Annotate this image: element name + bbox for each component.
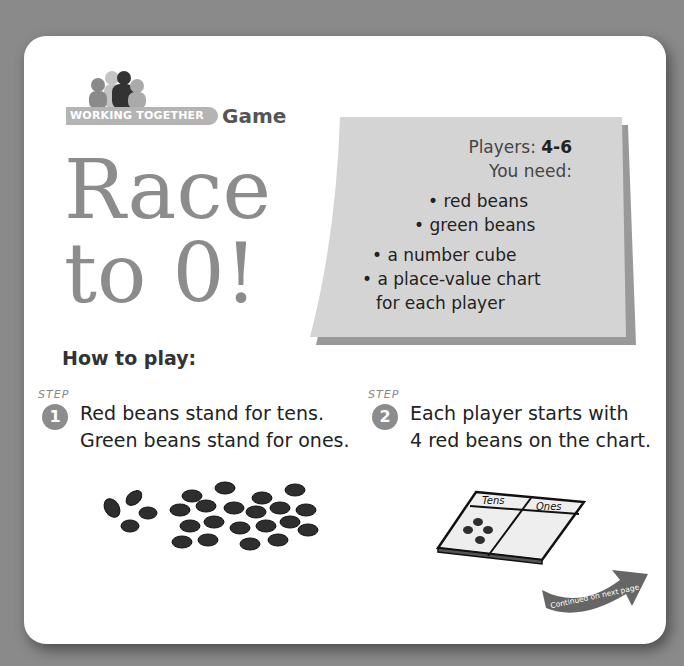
beans-illustration — [100, 478, 320, 558]
item-for-each-player: for each player — [310, 291, 622, 315]
game-type-label: Game — [222, 104, 286, 128]
working-together-banner: WORKING TOGETHER — [66, 107, 218, 125]
step-text: Each player starts with 4 red beans on t… — [410, 400, 651, 454]
step-label: STEP — [38, 388, 69, 401]
svg-text:Tens: Tens — [482, 495, 505, 506]
title-line-2: to 0! — [64, 232, 271, 316]
page-title: Race to 0! — [64, 148, 271, 316]
item-red-beans: • red beans — [310, 189, 622, 213]
svg-text:Ones: Ones — [536, 501, 562, 512]
players-line: Players: 4-6 — [310, 135, 622, 159]
item-number-cube: • a number cube — [310, 243, 622, 267]
continued-arrow[interactable]: Continued on next page — [540, 560, 650, 624]
people-icon — [82, 70, 162, 110]
step-number-badge: 1 — [42, 404, 68, 430]
item-green-beans: • green beans — [310, 213, 622, 237]
materials-panel: Players: 4-6 You need: • red beans • gre… — [310, 117, 630, 342]
step-number-badge: 2 — [372, 404, 398, 430]
you-need-label: You need: — [310, 159, 622, 183]
step-label: STEP — [368, 388, 399, 401]
how-to-play-heading: How to play: — [62, 347, 196, 369]
item-place-value-chart: • a place-value chart — [310, 267, 622, 291]
working-together-logo: WORKING TOGETHER Game — [62, 70, 302, 130]
step-text: Red beans stand for tens. Green beans st… — [80, 400, 350, 454]
title-line-1: Race — [64, 148, 271, 232]
